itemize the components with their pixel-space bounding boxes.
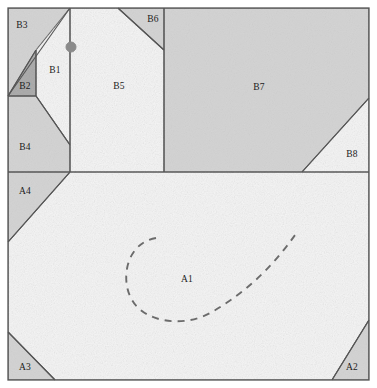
label-b7: B7	[253, 82, 265, 92]
label-b2: B2	[19, 81, 31, 91]
regions-layer	[8, 8, 369, 380]
label-b1: B1	[49, 65, 61, 75]
label-a4: A4	[19, 186, 31, 196]
label-b8: B8	[346, 149, 358, 159]
label-b6: B6	[147, 14, 159, 24]
geometry-figure: B3B2B1B4B5B6B7B8A1A4A3A2	[0, 0, 377, 388]
marker-layer	[66, 42, 76, 52]
label-b5: B5	[113, 81, 125, 91]
label-a3: A3	[19, 362, 31, 372]
label-a1: A1	[181, 274, 193, 284]
label-b4: B4	[19, 142, 31, 152]
label-a2: A2	[346, 362, 358, 372]
label-b3: B3	[16, 20, 28, 30]
figure-canvas: B3B2B1B4B5B6B7B8A1A4A3A2	[0, 0, 377, 388]
vertex-marker-dot	[66, 42, 76, 52]
